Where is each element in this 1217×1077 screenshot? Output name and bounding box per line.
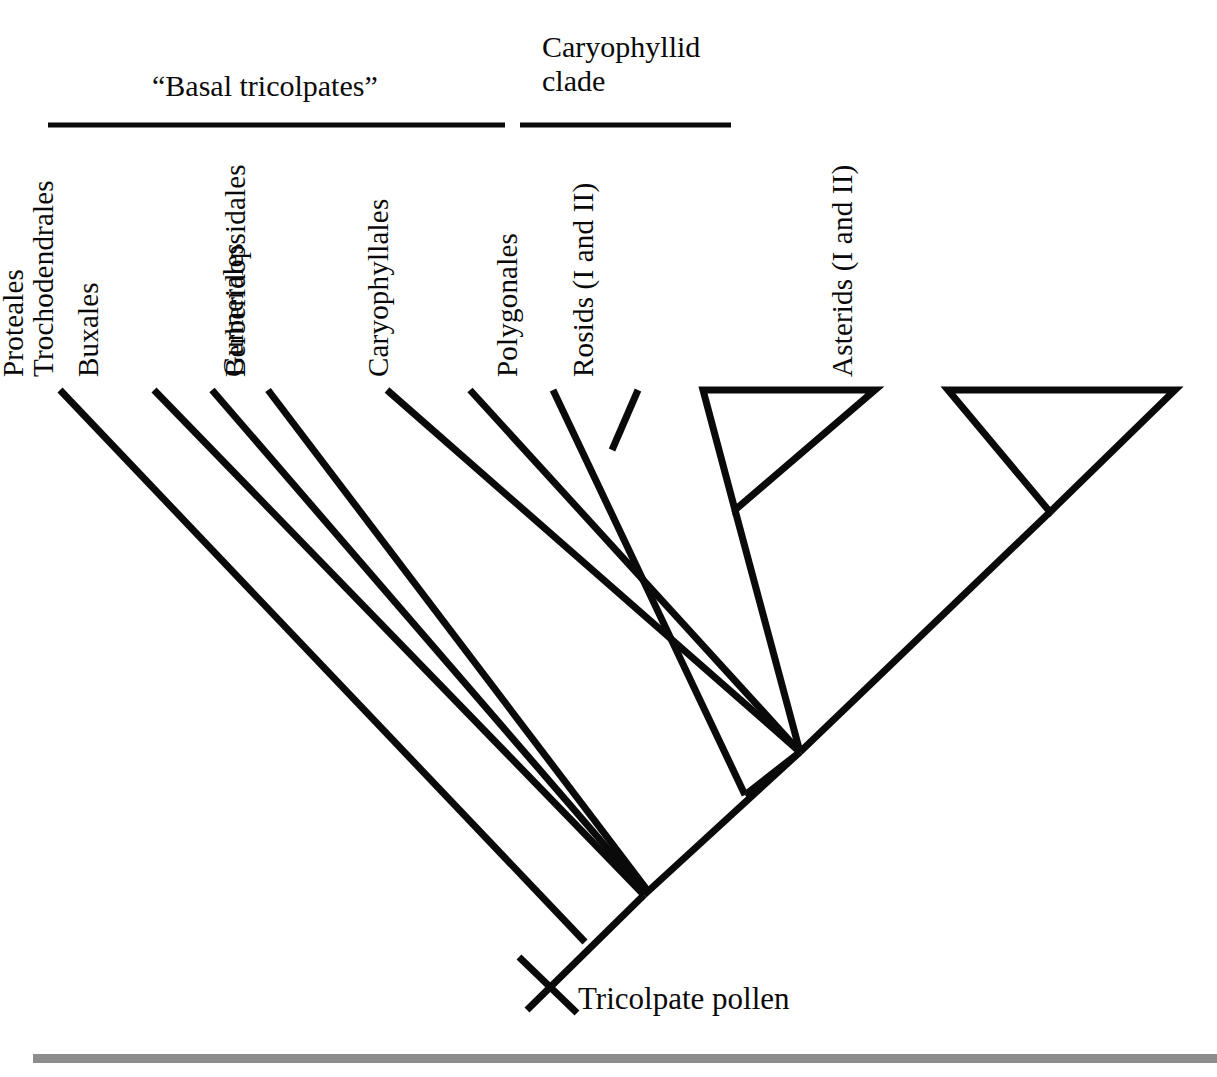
taxon-label-asterids: Asterids (I and II): [828, 165, 1062, 377]
branch-buxales: [212, 390, 646, 893]
asterids-clade-triangle[interactable]: [948, 390, 1175, 512]
group-label-caryophyllid-clade: Caryophyllid clade: [542, 30, 742, 97]
branch-proteales: [154, 390, 644, 895]
cladogram-figure: “Basal tricolpates” Caryophyllid clade R…: [0, 0, 1217, 1077]
tricolpate-pollen-label: Tricolpate pollen: [578, 983, 790, 1014]
footer-divider-rule: [33, 1054, 1217, 1063]
collapsed-clade-triangles: [703, 390, 1175, 512]
taxon-label-rosids: Rosids (I and II): [569, 183, 789, 377]
branch-caryophyllid-stem: [745, 752, 800, 795]
cladogram-canvas: [0, 0, 1217, 1077]
branch-core-node-to-asterids: [800, 512, 1050, 752]
branch-polygonales: [612, 390, 638, 450]
branch-ranunculales: [60, 390, 585, 942]
rosids-clade-triangle[interactable]: [703, 390, 875, 510]
basal-tricolpate-branches: [60, 390, 800, 942]
group-label-basal-tricolpates: “Basal tricolpates”: [152, 69, 378, 103]
